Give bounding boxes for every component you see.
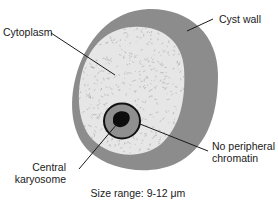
cytoplasm-granule (87, 155, 89, 156)
label-no-peripheral-chromatin-line2: chromatin (212, 152, 275, 164)
cytoplasm-granule (79, 61, 80, 62)
cytoplasm-granule (78, 33, 79, 34)
cytoplasm-granule (89, 43, 90, 44)
label-central-karyosome: Central karyosome (10, 161, 66, 185)
caption-size-range: Size range: 9-12 μm (78, 187, 198, 199)
label-central-karyosome-line2: karyosome (10, 173, 66, 185)
cytoplasm-granule (95, 26, 96, 28)
cytoplasm-granule (96, 31, 97, 33)
cytoplasm-granule (124, 58, 125, 59)
label-cytoplasm: Cytoplasm (3, 26, 53, 38)
cytoplasm-granule (80, 40, 81, 41)
cytoplasm-granule (139, 151, 140, 152)
cytoplasm-granule (102, 26, 103, 29)
cytoplasm-granule (98, 27, 100, 29)
label-cyst-wall: Cyst wall (219, 13, 261, 25)
cytoplasm-granule (136, 41, 137, 42)
cytoplasm-granule (135, 71, 136, 72)
cytoplasm-granule (90, 36, 91, 37)
cytoplasm-granule (80, 35, 81, 37)
label-no-peripheral-chromatin-line1: No peripheral (212, 140, 275, 152)
cytoplasm-granule (166, 87, 167, 88)
cytoplasm-granule (78, 29, 80, 31)
cytoplasm-granule (91, 104, 92, 105)
label-central-karyosome-line1: Central (10, 161, 66, 173)
cytoplasm-granule (179, 69, 180, 70)
label-no-peripheral-chromatin: No peripheral chromatin (212, 140, 275, 164)
